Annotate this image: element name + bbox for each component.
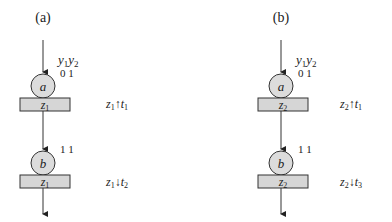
state-label: b — [40, 156, 47, 171]
transition-annotation: z1↑t1 — [105, 97, 128, 112]
state-label: b — [278, 156, 285, 171]
panel-label: (a) — [35, 10, 51, 26]
state-label: a — [40, 79, 47, 94]
inputs-values-bottom: 1 1 — [60, 143, 74, 155]
panel-a: (a) y1y2 0 1 a z1 z1↑t1 1 1 b z1 z1↓t2 — [20, 10, 128, 214]
diagram-canvas: (a) y1y2 0 1 a z1 z1↑t1 1 1 b z1 z1↓t2 (… — [0, 0, 392, 222]
inputs-values-bottom: 1 1 — [298, 143, 312, 155]
inputs-values-top: 0 1 — [298, 67, 312, 79]
panel-label: (b) — [273, 10, 290, 26]
inputs-values-top: 0 1 — [60, 67, 74, 79]
transition-annotation: z2↑t1 — [339, 97, 362, 112]
state-label: a — [278, 79, 285, 94]
transition-annotation: z1↓t2 — [105, 175, 128, 190]
transition-annotation: z2↓t3 — [339, 175, 362, 190]
panel-b: (b) y1y2 0 1 a z2 z2↑t1 1 1 b z2 z2↓t3 — [258, 10, 362, 214]
